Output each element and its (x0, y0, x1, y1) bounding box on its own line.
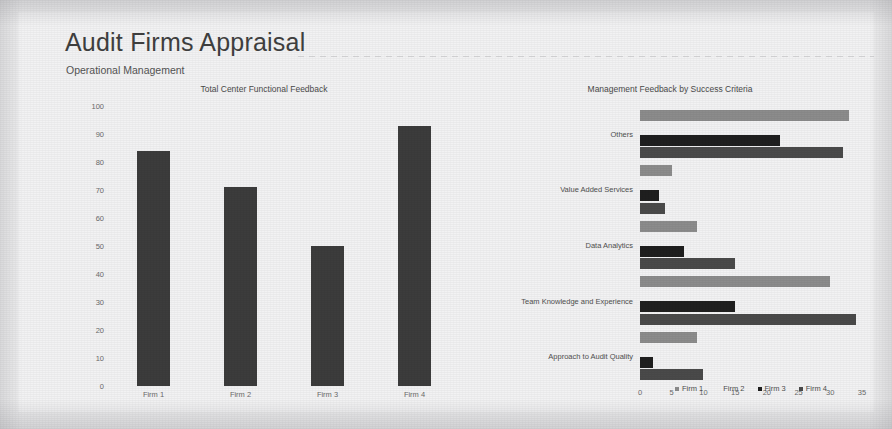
horizontal-bar[interactable] (640, 332, 697, 343)
legend-swatch-icon (716, 387, 720, 391)
category-label: Team Knowledge and Experience (521, 296, 633, 305)
legend-label: Firm 1 (682, 384, 703, 393)
category-label: Approach to Audit Quality (548, 352, 633, 361)
legend-swatch-icon (799, 387, 803, 391)
category-label: Value Added Services (560, 185, 633, 194)
horizontal-bar[interactable] (640, 276, 830, 287)
x-axis-category-label: Firm 3 (298, 390, 358, 399)
y-axis-tick-label: 10 (96, 354, 104, 363)
y-axis-tick-label: 40 (96, 270, 104, 279)
category-label: Data Analytics (585, 241, 633, 250)
chart-management-feedback-by-success-criteria[interactable]: Management Feedback by Success Criteria … (470, 84, 870, 412)
horizontal-bar[interactable] (640, 221, 697, 232)
horizontal-bar[interactable] (640, 135, 780, 146)
y-axis-tick-label: 0 (100, 382, 104, 391)
bar-chart-plot-area: Approach to Audit QualityTeam Knowledge … (640, 106, 862, 384)
y-axis-tick-label: 30 (96, 298, 104, 307)
header-divider (298, 56, 874, 57)
chart-title-right: Management Feedback by Success Criteria (470, 84, 870, 94)
x-axis-category-label: Firm 4 (385, 390, 445, 399)
bar-group (640, 165, 862, 214)
legend-item[interactable]: Firm 1 (675, 384, 703, 393)
legend-label: Firm 3 (765, 384, 786, 393)
column-bar[interactable] (137, 151, 170, 386)
category-label: Others (610, 129, 633, 138)
column-bar[interactable] (311, 246, 344, 386)
chart-total-center-functional-feedback[interactable]: Total Center Functional Feedback 0102030… (64, 84, 464, 404)
x-axis-category-label: Firm 2 (211, 390, 271, 399)
horizontal-bar[interactable] (640, 147, 843, 158)
horizontal-bar[interactable] (640, 246, 684, 257)
y-axis-tick-label: 100 (91, 102, 104, 111)
page-title: Audit Firms Appraisal (65, 28, 305, 57)
horizontal-bar[interactable] (640, 314, 856, 325)
horizontal-bar[interactable] (640, 110, 849, 121)
horizontal-bar[interactable] (640, 190, 659, 201)
y-axis-tick-label: 50 (96, 242, 104, 251)
page-subtitle: Operational Management (66, 64, 185, 76)
horizontal-bar[interactable] (640, 258, 735, 269)
x-axis-category-label: Firm 1 (124, 390, 184, 399)
column-bar[interactable] (224, 187, 257, 386)
bar-group (640, 221, 862, 270)
chart-legend: Firm 1Firm 2Firm 3Firm 4 (640, 384, 862, 393)
legend-item[interactable]: Firm 2 (716, 384, 744, 393)
y-axis-tick-label: 20 (96, 326, 104, 335)
bar-group (640, 276, 862, 325)
dashboard-card: Audit Firms Appraisal Operational Manage… (18, 12, 874, 412)
legend-item[interactable]: Firm 4 (799, 384, 827, 393)
y-axis-tick-label: 60 (96, 214, 104, 223)
bar-group (640, 110, 862, 159)
horizontal-bar[interactable] (640, 203, 665, 214)
chart-title-left: Total Center Functional Feedback (64, 84, 464, 94)
bar-group (640, 332, 862, 381)
legend-item[interactable]: Firm 3 (758, 384, 786, 393)
y-axis-tick-label: 70 (96, 186, 104, 195)
horizontal-bar[interactable] (640, 357, 653, 368)
legend-label: Firm 2 (723, 384, 744, 393)
legend-swatch-icon (675, 387, 679, 391)
horizontal-bar[interactable] (640, 301, 735, 312)
legend-swatch-icon (758, 387, 762, 391)
column-bar[interactable] (398, 126, 431, 386)
y-axis-tick-label: 80 (96, 158, 104, 167)
horizontal-bar[interactable] (640, 369, 703, 380)
legend-label: Firm 4 (806, 384, 827, 393)
column-chart-plot-area: 0102030405060708090100Firm 1Firm 2Firm 3… (110, 106, 458, 386)
horizontal-bar[interactable] (640, 165, 672, 176)
y-axis-tick-label: 90 (96, 130, 104, 139)
